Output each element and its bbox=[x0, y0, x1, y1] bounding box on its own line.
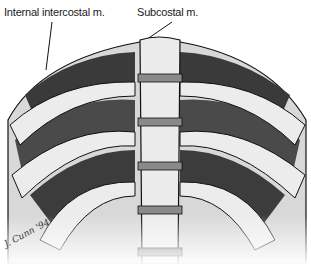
leader-line-internal bbox=[46, 22, 52, 70]
disc-2 bbox=[138, 118, 182, 126]
disc-3 bbox=[138, 162, 182, 170]
disc-4 bbox=[138, 206, 182, 214]
disc-1 bbox=[138, 74, 182, 82]
